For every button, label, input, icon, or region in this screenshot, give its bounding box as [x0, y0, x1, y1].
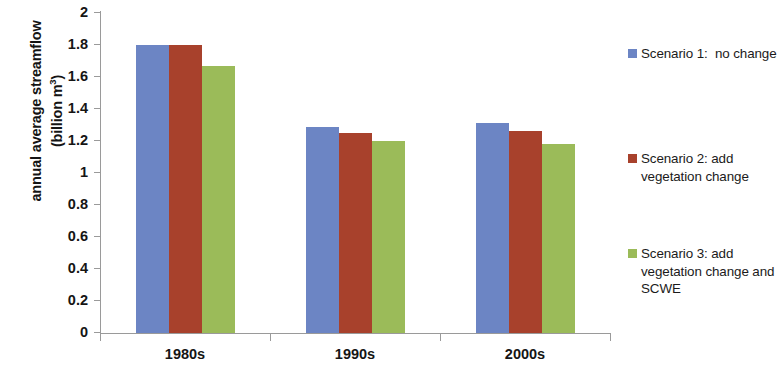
y-axis-tick-label: 0.8: [28, 197, 88, 212]
y-axis-tick-label: 0.2: [28, 293, 88, 308]
legend-item-3[interactable]: Scenario 3: add vegetation change and SC…: [628, 245, 783, 298]
x-axis-tick: [440, 334, 441, 341]
legend-item-2[interactable]: Scenario 2: add vegetation change: [628, 150, 783, 185]
y-axis-tick-label: 2: [28, 5, 88, 20]
y-axis-tick-label: 0.6: [28, 229, 88, 244]
y-axis-tick-label: 1.4: [28, 101, 88, 116]
bar: [372, 141, 405, 333]
legend-item-label: Scenario 3: add vegetation change and SC…: [641, 245, 783, 298]
x-axis-category-label: 1980s: [125, 347, 245, 362]
y-axis-tick-label: 1.2: [28, 133, 88, 148]
bar: [169, 45, 202, 333]
bar: [339, 133, 372, 333]
bar: [202, 66, 235, 333]
bar: [542, 144, 575, 333]
y-axis-tick-label: 1.8: [28, 37, 88, 52]
bar: [306, 127, 339, 333]
x-axis-tick: [610, 334, 611, 341]
bar: [509, 131, 542, 333]
y-axis-tick-label: 0: [28, 325, 88, 340]
y-axis-tick-label: 1.6: [28, 69, 88, 84]
legend-color-swatch-icon: [628, 154, 637, 163]
x-axis-line: [100, 333, 611, 334]
legend-color-swatch-icon: [628, 49, 637, 58]
x-axis-category-label: 1990s: [295, 347, 415, 362]
legend-item-label: Scenario 2: add vegetation change: [641, 150, 783, 185]
y-axis-tick-label: 1: [28, 165, 88, 180]
bar: [136, 45, 169, 333]
plot-area: [100, 13, 610, 333]
y-axis-tick-label: 0.4: [28, 261, 88, 276]
legend-item-1[interactable]: Scenario 1: no change: [628, 45, 777, 63]
x-axis-category-label: 2000s: [465, 347, 585, 362]
x-axis-tick: [100, 334, 101, 341]
x-axis-tick: [270, 334, 271, 341]
legend-item-label: Scenario 1: no change: [641, 45, 777, 63]
bar-chart-figure: annual average streamflow (billion m3) 0…: [0, 0, 783, 367]
legend-color-swatch-icon: [628, 249, 637, 258]
bar: [476, 123, 509, 333]
